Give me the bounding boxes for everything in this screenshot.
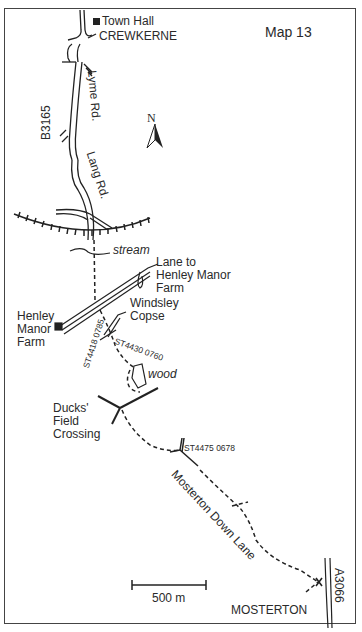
- railway-line: [14, 212, 150, 236]
- ducks-field-crossing: [98, 388, 158, 424]
- b3165-label: B3165: [40, 105, 53, 140]
- crewkerne-label: CREWKERNE: [99, 30, 177, 43]
- henley-farm-marker: [55, 323, 62, 330]
- lang-road: [72, 160, 89, 240]
- henley-manor-farm-label: Henley Manor Farm: [17, 310, 54, 349]
- grid-ref-3: ST4475 0678: [184, 442, 235, 455]
- mosterton-label: MOSTERTON: [231, 604, 307, 617]
- ducks-field-crossing-label: Ducks' Field Crossing: [53, 402, 100, 441]
- town-hall-label: Town Hall: [102, 15, 154, 28]
- scale-label: 500 m: [152, 592, 185, 605]
- street-north: [68, 10, 81, 40]
- stream-line: [70, 249, 110, 255]
- north-arrow-icon: [147, 124, 163, 148]
- north-label: N: [147, 112, 156, 125]
- town-hall-marker: [93, 18, 100, 25]
- a3066-road: [325, 558, 332, 628]
- a3066-label: A3066: [332, 568, 345, 603]
- stream-label: stream: [113, 244, 150, 257]
- wood-outline: [132, 364, 146, 388]
- scale-bar: [132, 580, 206, 590]
- windsley-copse-label: Windsley Copse: [130, 297, 179, 323]
- lane-to-henley-label: Lane to Henley Manor Farm: [156, 256, 231, 295]
- map-title: Map 13: [265, 26, 312, 39]
- wood-label: wood: [148, 368, 177, 381]
